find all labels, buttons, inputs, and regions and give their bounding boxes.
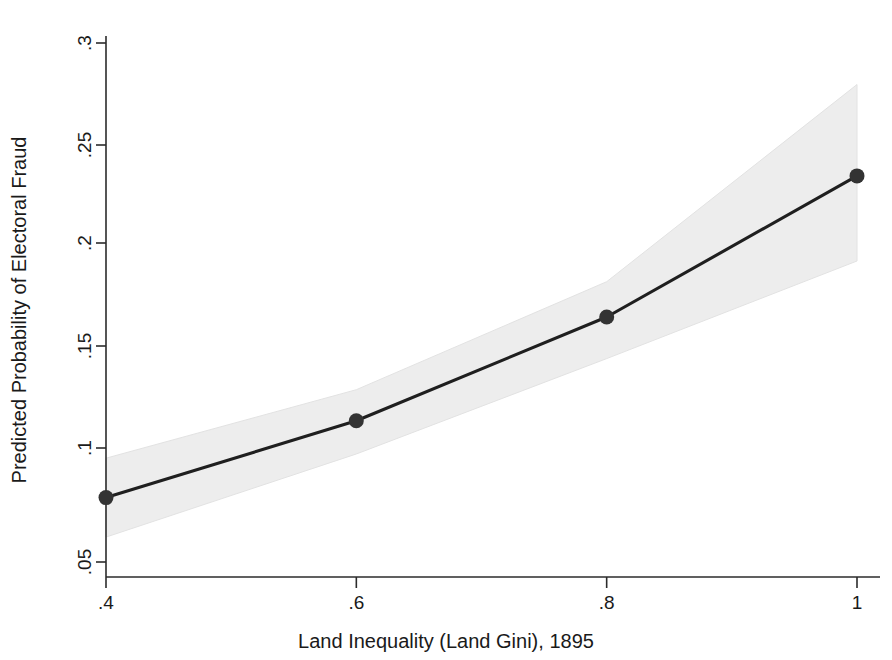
x-tick-label: .8 xyxy=(599,592,615,613)
y-tick-label: .1 xyxy=(74,440,95,456)
data-point-marker xyxy=(99,490,114,505)
x-tick-label: .4 xyxy=(98,592,114,613)
y-axis-title: Predicted Probability of Electoral Fraud xyxy=(8,137,30,484)
data-point-marker xyxy=(349,413,364,428)
y-tick-label: .05 xyxy=(74,549,95,575)
x-tick-label: 1 xyxy=(852,592,863,613)
y-tick-label: .15 xyxy=(74,333,95,359)
data-point-marker xyxy=(850,168,865,183)
chart-background xyxy=(0,0,892,660)
y-tick-label: .25 xyxy=(74,132,95,158)
chart-figure: .05.1.15.2.25.3 .4.6.81 Land Inequality … xyxy=(0,0,892,660)
x-tick-label: .6 xyxy=(348,592,364,613)
line-chart-canvas: .05.1.15.2.25.3 .4.6.81 Land Inequality … xyxy=(0,0,892,660)
y-tick-label: .3 xyxy=(74,35,95,51)
y-tick-label: .2 xyxy=(74,235,95,251)
data-point-marker xyxy=(599,310,614,325)
x-axis-title: Land Inequality (Land Gini), 1895 xyxy=(298,630,594,652)
